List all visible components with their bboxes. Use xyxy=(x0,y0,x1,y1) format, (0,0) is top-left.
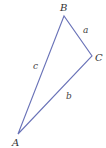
triangle-abc xyxy=(18,16,92,134)
vertex-label-c: C xyxy=(95,52,103,63)
side-label-a: a xyxy=(83,25,88,35)
triangle-diagram: A B C a b c xyxy=(0,0,106,148)
side-label-c: c xyxy=(33,61,38,71)
vertex-label-b: B xyxy=(59,2,67,13)
side-label-b: b xyxy=(66,91,72,101)
vertex-label-a: A xyxy=(11,137,19,148)
